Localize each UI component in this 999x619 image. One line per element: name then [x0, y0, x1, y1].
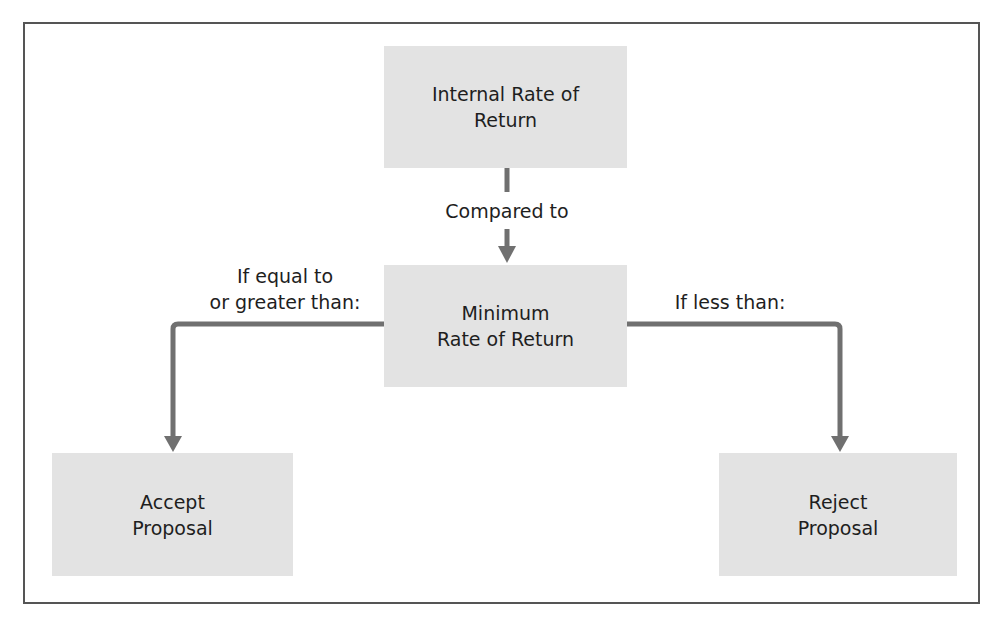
minimum-rate-box-line1: Minimum	[461, 300, 549, 326]
reject-proposal-box: Reject Proposal	[719, 453, 957, 576]
reject-box-line1: Reject	[809, 489, 868, 515]
accept-box-line1: Accept	[140, 489, 205, 515]
accept-condition-label: If equal to or greater than:	[195, 263, 375, 315]
irr-box-line2: Return	[474, 107, 537, 133]
minimum-rate-box: Minimum Rate of Return	[384, 265, 627, 387]
accept-box-line2: Proposal	[132, 515, 213, 541]
accept-condition-line2: or greater than:	[195, 289, 375, 315]
minimum-rate-box-line2: Rate of Return	[437, 326, 574, 352]
reject-box-line2: Proposal	[798, 515, 879, 541]
irr-box: Internal Rate of Return	[384, 46, 627, 168]
irr-box-line1: Internal Rate of	[432, 81, 579, 107]
compared-to-label: Compared to	[407, 198, 607, 224]
accept-proposal-box: Accept Proposal	[52, 453, 293, 576]
accept-condition-line1: If equal to	[195, 263, 375, 289]
reject-condition-label: If less than:	[660, 289, 800, 315]
